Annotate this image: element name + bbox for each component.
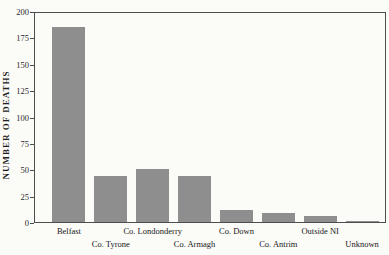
- y-tick-label: 150: [3, 60, 29, 70]
- y-tick-mark: [30, 65, 34, 66]
- y-tick-mark: [30, 91, 34, 92]
- x-tick-label: Belfast: [57, 226, 81, 236]
- y-tick-label: 100: [3, 113, 29, 123]
- bar-belfast: [52, 27, 85, 222]
- x-tick-label: Co. Tyrone: [92, 239, 130, 249]
- y-tick-label: 125: [3, 86, 29, 96]
- y-tick-label: 25: [3, 192, 29, 202]
- x-tick-label: Co. Down: [219, 226, 254, 236]
- bar-co-londonderry: [136, 169, 169, 222]
- bar-chart-figure: NUMBER OF DEATHS 0255075100125150175200 …: [0, 0, 389, 255]
- y-tick-label: 50: [3, 165, 29, 175]
- x-tick-label: Co. Armagh: [174, 239, 216, 249]
- x-tick-label: Unknown: [345, 239, 379, 249]
- y-tick-label: 75: [3, 139, 29, 149]
- bar-unknown: [346, 221, 379, 223]
- y-tick-mark: [30, 223, 34, 224]
- x-tick-label: Outside NI: [301, 226, 339, 236]
- plot-area: [34, 12, 386, 223]
- y-tick-label: 0: [3, 218, 29, 228]
- y-tick-mark: [30, 170, 34, 171]
- x-tick-label: Co. Londonderry: [123, 226, 182, 236]
- x-tick-label: Co. Antrim: [259, 239, 297, 249]
- bar-co-tyrone: [94, 176, 127, 222]
- y-tick-label: 200: [3, 7, 29, 17]
- y-tick-mark: [30, 144, 34, 145]
- bar-co-antrim: [262, 213, 295, 222]
- bar-co-down: [220, 210, 253, 222]
- bar-co-armagh: [178, 176, 211, 222]
- y-tick-mark: [30, 118, 34, 119]
- y-tick-mark: [30, 197, 34, 198]
- y-tick-mark: [30, 12, 34, 13]
- y-tick-label: 175: [3, 33, 29, 43]
- y-tick-mark: [30, 38, 34, 39]
- bar-outside-ni: [304, 216, 337, 222]
